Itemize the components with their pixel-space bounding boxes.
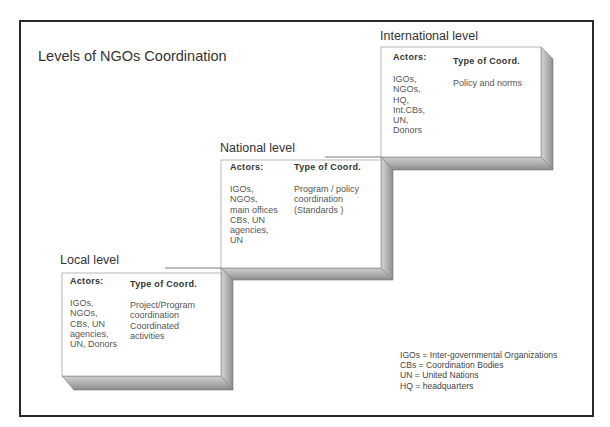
type-item: Coordinated [130, 321, 195, 331]
actor-item: UN, Donors [70, 339, 117, 349]
level-label-international: International level [380, 29, 478, 43]
abbreviation-legend: IGOs = Inter-governmental Organizations … [400, 350, 557, 391]
type-item: Project/Program [130, 300, 195, 310]
actor-item: UN [230, 235, 278, 245]
actors-list-national: IGOs, NGOs, main offices CBs, UN agencie… [230, 184, 278, 246]
actors-list-international: IGOs, NGOs, HQ, Int.CBs, UN, Donors [393, 74, 425, 136]
actor-item: IGOs, [70, 298, 117, 308]
type-list-national: Program / policy coordination (Standards… [294, 184, 359, 215]
type-list-local: Project/Program coordination Coordinated… [130, 300, 195, 341]
legend-item: IGOs = Inter-governmental Organizations [400, 350, 557, 360]
actor-item: CBs, UN [70, 319, 117, 329]
legend-item: UN = United Nations [400, 370, 557, 380]
type-list-international: Policy and norms [453, 78, 522, 88]
type-item: Program / policy [294, 184, 359, 194]
riser-international [381, 157, 393, 280]
type-heading-international: Type of Coord. [453, 56, 520, 66]
actors-list-local: IGOs, NGOs, CBs, UN agencies, UN, Donors [70, 298, 117, 349]
actor-item: Donors [393, 125, 425, 135]
actor-item: NGOs, [393, 84, 425, 94]
actor-item: Int.CBs, [393, 105, 425, 115]
level-label-national: National level [220, 141, 295, 155]
actor-item: IGOs, [230, 184, 278, 194]
actor-item: NGOs, [230, 194, 278, 204]
actor-item: IGOs, [393, 74, 425, 84]
actors-heading-local: Actors: [70, 276, 104, 286]
legend-item: CBs = Coordination Bodies [400, 360, 557, 370]
actors-heading-national: Actors: [230, 162, 264, 172]
actor-item: HQ, [393, 95, 425, 105]
legend-item: HQ = headquarters [400, 381, 557, 391]
type-item: coordination [130, 310, 195, 320]
actors-heading-international: Actors: [393, 52, 427, 62]
actor-item: NGOs, [70, 308, 117, 318]
actor-item: agencies, [70, 329, 117, 339]
type-heading-local: Type of Coord. [130, 279, 197, 289]
actor-item: agencies, [230, 225, 278, 235]
type-item: (Standards ) [294, 205, 359, 215]
type-item: Policy and norms [453, 78, 522, 88]
riser-national [221, 268, 233, 390]
type-item: coordination [294, 194, 359, 204]
actor-item: UN, [393, 115, 425, 125]
type-item: activities [130, 331, 195, 341]
type-heading-national: Type of Coord. [294, 162, 361, 172]
actor-item: CBs, UN [230, 215, 278, 225]
level-label-local: Local level [60, 253, 119, 267]
actor-item: main offices [230, 205, 278, 215]
